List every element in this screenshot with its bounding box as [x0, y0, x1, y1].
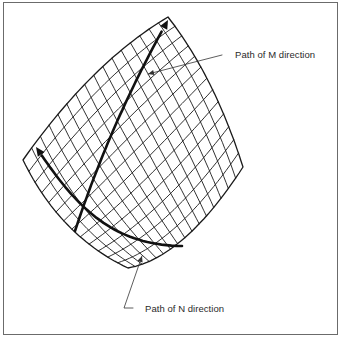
m-leader-line [148, 55, 222, 74]
n-direction-arrow-icon [36, 147, 44, 157]
n-leader-line [124, 256, 142, 308]
mesh-line-u [94, 75, 185, 238]
m-direction-label: Path of M direction [235, 49, 315, 60]
surface-mesh [29, 23, 239, 267]
mesh-line-u [149, 29, 228, 188]
mesh-line-v [89, 114, 223, 244]
mesh-line-u [49, 125, 149, 261]
mesh-line-u [58, 114, 156, 258]
m-direction-path-line [75, 32, 162, 231]
n-direction-label: Path of N direction [145, 303, 224, 314]
m-leader-arrow-icon [148, 70, 154, 75]
n-direction-leader-line [124, 256, 143, 308]
mesh-line-v [80, 102, 218, 237]
mesh-line-v [35, 36, 182, 182]
